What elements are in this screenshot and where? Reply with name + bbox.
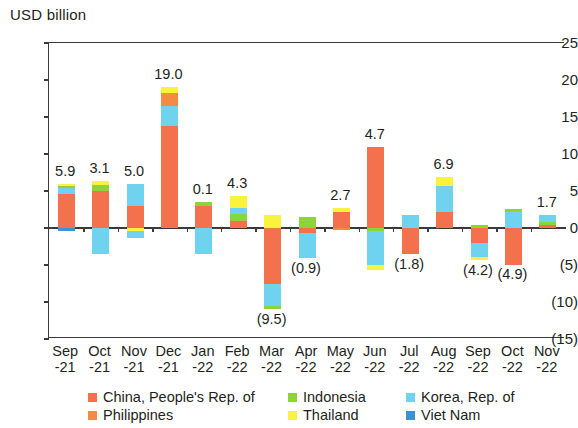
x-axis-month: Apr — [295, 343, 318, 359]
bar-value-label: 4.7 — [365, 126, 385, 142]
x-axis-category-label: Oct-22 — [501, 343, 524, 375]
bar-segment — [58, 228, 75, 231]
y-axis-tick — [44, 264, 49, 265]
bar-stack[interactable] — [92, 43, 109, 339]
x-axis-year: -22 — [327, 359, 354, 375]
bar-value-label: (4.9) — [497, 266, 527, 282]
bar-segment — [333, 208, 350, 212]
bar-stack[interactable] — [436, 43, 453, 339]
bar-value-label: 2.7 — [330, 187, 350, 203]
x-axis-category-label: Sep-22 — [465, 343, 491, 375]
x-axis-tick — [152, 227, 153, 232]
x-axis-year: -22 — [431, 359, 457, 375]
x-axis-category-label: Aug-22 — [431, 343, 457, 375]
bar-segment — [195, 202, 212, 206]
x-axis-tick — [255, 227, 256, 232]
bar-segment — [471, 228, 488, 243]
y-axis-tick — [44, 190, 49, 191]
x-axis-month: Mar — [259, 343, 284, 359]
chart-figure: USD billion 2520151050(5)(10)(15) Sep-21… — [0, 0, 578, 428]
plot-area — [48, 42, 564, 338]
x-axis-month: Jul — [399, 343, 420, 359]
bar-segment — [127, 184, 144, 207]
x-axis-year: -22 — [259, 359, 284, 375]
x-axis-category-label: Mar-22 — [259, 343, 284, 375]
legend-label: Indonesia — [303, 389, 366, 405]
bar-stack[interactable] — [471, 43, 488, 339]
bar-segment — [230, 207, 247, 213]
bar-value-label: (0.9) — [291, 260, 321, 276]
legend-item[interactable]: Indonesia — [288, 389, 406, 405]
bar-stack[interactable] — [367, 43, 384, 339]
bar-segment — [471, 243, 488, 257]
bar-stack[interactable] — [58, 43, 75, 339]
bar-stack[interactable] — [161, 43, 178, 339]
y-axis-tick — [44, 116, 49, 117]
bar-segment — [333, 228, 350, 230]
x-axis-month: Feb — [225, 343, 250, 359]
bar-segment — [161, 93, 178, 107]
y-axis-tick-label: 15 — [541, 108, 578, 125]
bar-segment — [195, 206, 212, 229]
bar-stack[interactable] — [505, 43, 522, 339]
bar-segment — [92, 181, 109, 185]
bar-segment — [436, 177, 453, 186]
x-axis-month: Jun — [363, 343, 386, 359]
bar-stack[interactable] — [264, 43, 281, 339]
x-axis-month: Jan — [191, 343, 214, 359]
bar-stack[interactable] — [127, 43, 144, 339]
x-axis-month: Oct — [88, 343, 111, 359]
bar-segment — [299, 217, 316, 229]
x-axis-month: Dec — [155, 343, 181, 359]
x-axis-year: -21 — [52, 359, 78, 375]
x-axis-year: -22 — [399, 359, 420, 375]
x-axis-category-label: Sep-21 — [52, 343, 78, 375]
legend-item[interactable]: Philippines — [88, 407, 288, 423]
x-axis-year: -22 — [363, 359, 386, 375]
y-axis-tick-label: (5) — [541, 256, 578, 273]
bar-stack[interactable] — [230, 43, 247, 339]
y-axis-title: USD billion — [10, 6, 86, 23]
bar-stack[interactable] — [299, 43, 316, 339]
bar-segment — [367, 147, 384, 229]
y-axis-tick-label: 10 — [541, 145, 578, 162]
bar-segment — [264, 306, 281, 309]
legend-label: Korea, Rep. of — [421, 389, 515, 405]
y-axis-tick — [44, 153, 49, 154]
bar-segment — [264, 215, 281, 228]
bar-segment — [436, 212, 453, 229]
x-axis-tick — [462, 227, 463, 232]
y-axis-tick-label: 0 — [541, 219, 578, 236]
x-axis-category-label: Dec-21 — [155, 343, 181, 375]
bar-value-label: 1.7 — [537, 194, 557, 210]
legend-label: China, People's Rep. of — [103, 389, 255, 405]
y-axis-tick — [44, 227, 49, 228]
x-axis-year: -22 — [501, 359, 524, 375]
legend-swatch-icon — [288, 393, 297, 402]
bar-stack[interactable] — [402, 43, 419, 339]
legend-item[interactable]: Viet Nam — [406, 407, 558, 423]
bar-value-label: 6.9 — [434, 156, 454, 172]
bar-segment — [402, 228, 419, 254]
y-axis-tick-label: 20 — [541, 71, 578, 88]
legend-label: Philippines — [103, 407, 173, 423]
bar-segment — [505, 228, 522, 265]
x-axis-tick — [427, 227, 428, 232]
x-axis-category-label: Feb-22 — [225, 343, 250, 375]
legend-item[interactable]: China, People's Rep. of — [88, 389, 288, 405]
x-axis-category-label: Nov-21 — [121, 343, 147, 375]
legend-item[interactable]: Korea, Rep. of — [406, 389, 558, 405]
legend-label: Viet Nam — [421, 407, 480, 423]
bar-segment — [58, 188, 75, 194]
x-axis-tick — [83, 227, 84, 232]
bar-segment — [195, 228, 212, 254]
bar-segment — [58, 193, 75, 228]
plot-inner — [49, 43, 564, 337]
x-axis-tick — [496, 227, 497, 232]
x-axis-year: -22 — [191, 359, 214, 375]
bar-segment — [127, 231, 144, 237]
x-axis-tick — [531, 227, 532, 232]
legend-item[interactable]: Thailand — [288, 407, 406, 423]
bar-value-label: 5.0 — [124, 163, 144, 179]
bar-value-label: (9.5) — [257, 311, 287, 327]
